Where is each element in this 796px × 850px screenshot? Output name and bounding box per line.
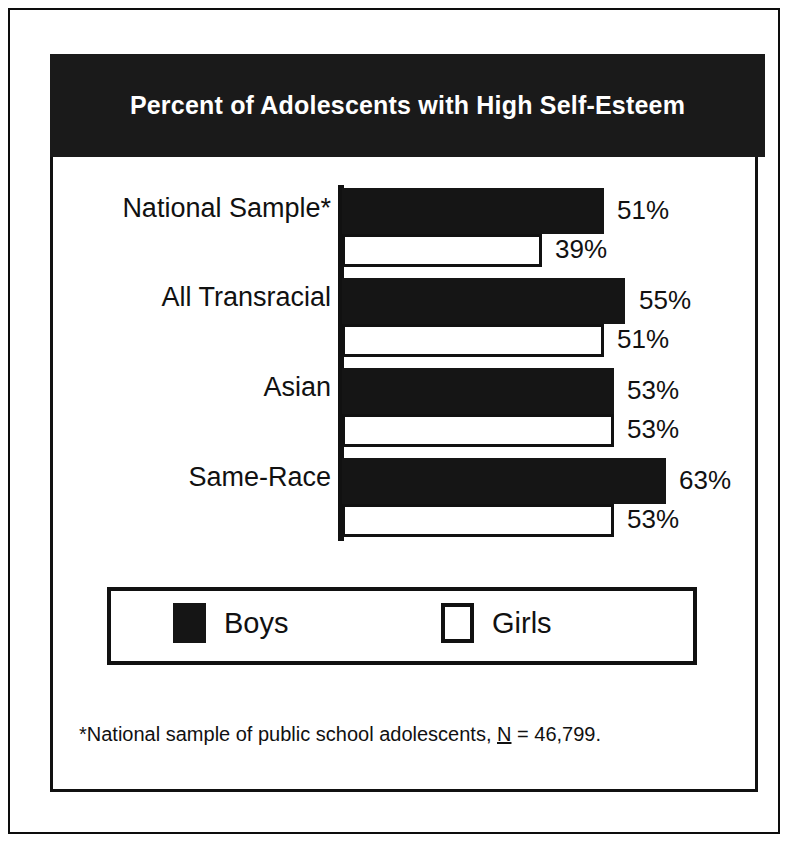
legend-label-boys: Boys bbox=[224, 607, 288, 640]
bar-value-boys-all-transracial: 55% bbox=[639, 285, 691, 316]
legend-label-girls: Girls bbox=[492, 607, 552, 640]
footnote-n-symbol: N bbox=[497, 723, 511, 745]
bar-boys-same-race bbox=[342, 458, 666, 504]
bar-value-girls-all-transracial: 51% bbox=[617, 324, 669, 355]
bar-value-boys-asian: 53% bbox=[627, 375, 679, 406]
bar-boys-national-sample bbox=[342, 188, 604, 234]
footnote: *National sample of public school adoles… bbox=[79, 723, 601, 746]
category-label-asian: Asian bbox=[31, 372, 331, 403]
bar-girls-national-sample bbox=[342, 234, 542, 267]
bar-value-boys-national-sample: 51% bbox=[617, 195, 669, 226]
category-label-national-sample: National Sample* bbox=[31, 193, 331, 224]
footnote-prefix: *National sample of public school adoles… bbox=[79, 723, 497, 745]
category-label-same-race: Same-Race bbox=[31, 462, 331, 493]
bar-boys-all-transracial bbox=[342, 278, 625, 324]
title-banner: Percent of Adolescents with High Self-Es… bbox=[50, 54, 765, 157]
bar-boys-asian bbox=[342, 368, 614, 414]
legend: Boys Girls bbox=[107, 587, 697, 665]
bar-girls-all-transracial bbox=[342, 324, 604, 357]
bar-value-girls-same-race: 53% bbox=[627, 504, 679, 535]
bar-value-girls-asian: 53% bbox=[627, 414, 679, 445]
footnote-suffix: = 46,799. bbox=[511, 723, 601, 745]
legend-item-boys: Boys bbox=[173, 603, 288, 643]
figure-outer-frame: Percent of Adolescents with High Self-Es… bbox=[8, 8, 780, 834]
bar-value-boys-same-race: 63% bbox=[679, 465, 731, 496]
chart-panel: National Sample* 51% 39% All Transracial… bbox=[50, 102, 758, 792]
plot-area: National Sample* 51% 39% All Transracial… bbox=[61, 177, 751, 549]
bar-girls-same-race bbox=[342, 504, 614, 537]
category-label-all-transracial: All Transracial bbox=[31, 282, 331, 313]
bar-value-girls-national-sample: 39% bbox=[555, 234, 607, 265]
page-title: Percent of Adolescents with High Self-Es… bbox=[130, 91, 685, 120]
hollow-square-icon bbox=[441, 603, 474, 643]
filled-square-icon bbox=[173, 603, 206, 643]
legend-item-girls: Girls bbox=[441, 603, 552, 643]
bar-girls-asian bbox=[342, 414, 614, 447]
